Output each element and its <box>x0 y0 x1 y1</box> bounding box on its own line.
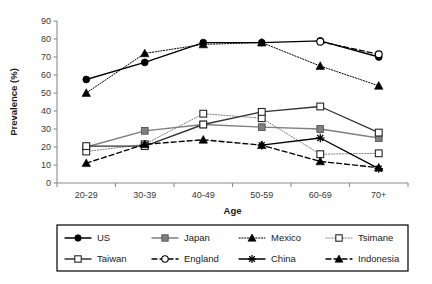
y-tick-label: 90 <box>41 16 51 26</box>
x-tick-label-30-39: 30-39 <box>133 190 156 200</box>
legend-label: Indonesia <box>358 253 400 264</box>
legend-label: Taiwan <box>97 253 127 264</box>
x-tick-label-70-: 70+ <box>371 190 386 200</box>
legend-label: US <box>97 232 110 243</box>
y-tick-label: 50 <box>41 88 51 98</box>
y-tick-label: 40 <box>41 106 51 116</box>
y-tick-label: 30 <box>41 124 51 134</box>
data-point-marker <box>317 103 324 110</box>
data-point-marker <box>248 255 256 263</box>
data-point-marker <box>162 235 168 241</box>
x-axis-title: Age <box>224 205 242 216</box>
legend-label: Japan <box>184 232 210 243</box>
data-point-marker <box>258 124 265 131</box>
data-point-marker <box>200 121 207 128</box>
y-tick-label: 0 <box>46 178 51 188</box>
data-point-marker <box>200 110 207 117</box>
data-point-marker <box>375 129 382 136</box>
legend-label: Mexico <box>271 232 301 243</box>
data-point-marker <box>375 150 382 157</box>
data-point-marker <box>317 126 324 133</box>
chart-figure: 0102030405060708090 20-2930-3940-4950-59… <box>0 0 432 284</box>
y-axis-title: Prevalence (%) <box>8 68 19 136</box>
y-tick-label: 10 <box>41 160 51 170</box>
chart-legend: USJapanMexicoTsimaneTaiwanEnglandChinaIn… <box>57 225 408 271</box>
legend-label: Tsimane <box>358 232 393 243</box>
x-tick-label-50-59: 50-59 <box>250 190 273 200</box>
data-point-marker <box>336 235 342 241</box>
y-tick-label: 80 <box>41 34 51 44</box>
data-point-marker <box>83 76 90 83</box>
x-tick-label-40-49: 40-49 <box>192 190 215 200</box>
x-tick-label-20-29: 20-29 <box>75 190 98 200</box>
data-point-marker <box>141 59 148 66</box>
legend-label: China <box>271 253 297 264</box>
data-point-marker <box>258 109 265 116</box>
data-point-marker <box>317 38 324 45</box>
data-point-marker <box>75 235 81 241</box>
y-tick-label: 20 <box>41 142 51 152</box>
data-point-marker <box>75 256 81 262</box>
data-point-marker <box>162 256 168 262</box>
y-tick-label: 60 <box>41 70 51 80</box>
data-point-marker <box>375 51 382 58</box>
prevalence-by-age-line-chart: 0102030405060708090 20-2930-3940-4950-59… <box>0 0 432 284</box>
x-tick-label-60-69: 60-69 <box>309 190 332 200</box>
data-point-marker <box>141 127 148 134</box>
data-point-marker <box>316 134 325 143</box>
data-point-marker <box>83 143 90 150</box>
legend-label: England <box>184 253 219 264</box>
y-tick-label: 70 <box>41 52 51 62</box>
